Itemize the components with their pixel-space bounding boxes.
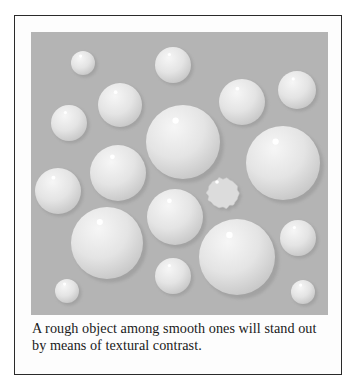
- bubble-body: [219, 79, 265, 125]
- smooth-bubble: [35, 168, 81, 214]
- bubble-highlight: [272, 138, 278, 144]
- bubble-body: [199, 219, 275, 295]
- smooth-bubble: [246, 126, 320, 200]
- bubble-highlight: [293, 226, 296, 229]
- bubble-body: [35, 168, 81, 214]
- bubble-body: [71, 51, 95, 75]
- smooth-bubble: [71, 207, 143, 279]
- smooth-bubble: [51, 105, 87, 141]
- bubble-highlight: [226, 232, 232, 238]
- bubble-highlight: [79, 54, 82, 57]
- smooth-bubble: [199, 219, 275, 295]
- bubble-highlight: [172, 117, 178, 123]
- bubble-highlight: [114, 90, 118, 94]
- figure-caption: A rough object among smooth ones will st…: [32, 320, 332, 354]
- bubble-highlight: [292, 77, 295, 80]
- bubble-scene: [31, 32, 328, 315]
- bubble-highlight: [63, 282, 66, 285]
- bubble-body: [246, 126, 320, 200]
- bubble-highlight: [51, 176, 55, 180]
- texture-panel: [31, 32, 328, 315]
- smooth-bubble: [291, 280, 315, 304]
- bubble-body: [291, 280, 315, 304]
- bubble-body: [90, 145, 146, 201]
- smooth-bubble: [278, 71, 316, 109]
- bubble-body: [98, 83, 142, 127]
- bubble-body: [280, 220, 316, 256]
- bubble-highlight: [97, 219, 103, 225]
- smooth-bubble: [219, 79, 265, 125]
- bubble-body: [147, 189, 203, 245]
- smooth-bubble: [155, 47, 191, 83]
- bubble-body: [55, 279, 79, 303]
- bubble-body: [71, 207, 143, 279]
- bubble-highlight: [299, 283, 302, 286]
- bubble-body: [146, 105, 220, 179]
- smooth-bubble: [55, 279, 79, 303]
- smooth-bubble: [280, 220, 316, 256]
- bubble-body: [155, 47, 191, 83]
- bubble-body: [51, 105, 87, 141]
- bubble-highlight: [167, 198, 172, 203]
- smooth-bubble: [147, 189, 203, 245]
- smooth-bubble: [155, 258, 191, 294]
- bubble-highlight: [110, 154, 115, 159]
- bubble-highlight: [235, 87, 239, 91]
- smooth-bubble: [98, 83, 142, 127]
- rough-object-highlight: [215, 180, 219, 184]
- bubble-body: [278, 71, 316, 109]
- smooth-bubble: [90, 145, 146, 201]
- smooth-bubble: [146, 105, 220, 179]
- smooth-bubble: [71, 51, 95, 75]
- bubble-highlight: [168, 53, 171, 56]
- bubble-highlight: [64, 111, 67, 114]
- bubble-highlight: [168, 264, 171, 267]
- bubble-body: [155, 258, 191, 294]
